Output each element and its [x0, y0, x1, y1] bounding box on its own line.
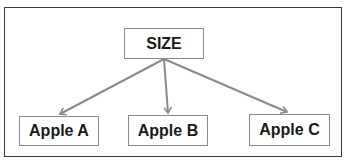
node-size: SIZE — [124, 28, 204, 59]
node-apple-b-label: Apple B — [138, 122, 198, 140]
node-size-label: SIZE — [146, 35, 182, 53]
node-apple-c: Apple C — [249, 114, 330, 146]
node-apple-a-label: Apple A — [29, 122, 89, 140]
node-apple-b: Apple B — [128, 115, 208, 146]
node-apple-c-label: Apple C — [259, 121, 319, 139]
node-apple-a: Apple A — [19, 116, 99, 146]
diagram-canvas: SIZE Apple A Apple B Apple C — [0, 0, 348, 163]
